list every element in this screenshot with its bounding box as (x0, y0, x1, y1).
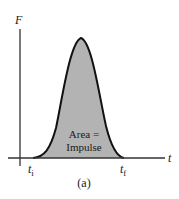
t-final-label: tf (120, 162, 126, 178)
impulse-diagram: F t ti tf Area = Impulse (a) (0, 0, 179, 199)
figure-caption: (a) (77, 176, 90, 190)
x-axis-label: t (168, 151, 172, 165)
area-label-line1: Area = (69, 128, 99, 140)
t-initial-label: ti (28, 162, 34, 178)
y-axis-label: F (14, 13, 23, 27)
area-label-line2: Impulse (66, 141, 102, 153)
